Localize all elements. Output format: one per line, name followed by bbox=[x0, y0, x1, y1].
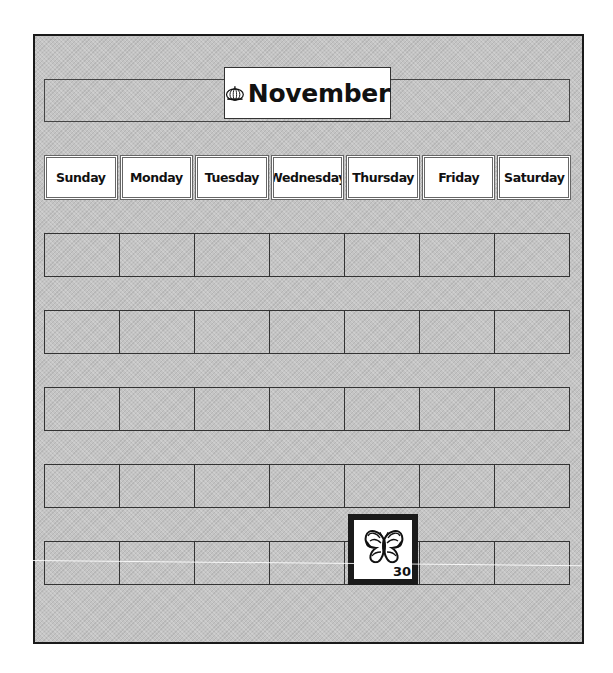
date-card-30[interactable]: 30 bbox=[348, 514, 418, 585]
day-slot[interactable] bbox=[494, 542, 569, 584]
weekday-header-saturday: Saturday bbox=[497, 155, 571, 200]
weekday-header-thursday: Thursday bbox=[346, 155, 420, 200]
weekday-header-sunday: Sunday bbox=[44, 155, 118, 200]
day-slot[interactable] bbox=[419, 234, 494, 276]
day-slot[interactable] bbox=[119, 465, 194, 507]
day-slot[interactable] bbox=[119, 388, 194, 430]
weekday-header-wednesday: Wednesday bbox=[271, 155, 345, 200]
week-row-4 bbox=[44, 464, 570, 508]
day-slot[interactable] bbox=[45, 311, 119, 353]
day-slot[interactable] bbox=[269, 465, 344, 507]
day-slot[interactable] bbox=[419, 311, 494, 353]
day-slot[interactable] bbox=[45, 542, 119, 584]
day-slot[interactable] bbox=[194, 311, 269, 353]
day-slot[interactable] bbox=[344, 388, 419, 430]
month-title-card[interactable]: November bbox=[224, 67, 391, 119]
day-slot[interactable] bbox=[494, 234, 569, 276]
date-number: 30 bbox=[392, 565, 412, 579]
day-slot[interactable] bbox=[45, 388, 119, 430]
day-slot[interactable] bbox=[419, 465, 494, 507]
day-slot[interactable] bbox=[45, 234, 119, 276]
day-slot[interactable] bbox=[269, 311, 344, 353]
weekday-header-row: Sunday Monday Tuesday Wednesday Thursday… bbox=[43, 155, 572, 200]
week-row-3 bbox=[44, 387, 570, 431]
weekday-header-monday: Monday bbox=[120, 155, 194, 200]
day-slot[interactable] bbox=[494, 388, 569, 430]
weekday-header-tuesday: Tuesday bbox=[195, 155, 269, 200]
day-slot[interactable] bbox=[119, 542, 194, 584]
day-slot[interactable] bbox=[494, 311, 569, 353]
day-slot[interactable] bbox=[269, 388, 344, 430]
day-slot[interactable] bbox=[119, 311, 194, 353]
day-slot[interactable] bbox=[119, 234, 194, 276]
weekday-header-friday: Friday bbox=[422, 155, 496, 200]
day-slot[interactable] bbox=[269, 234, 344, 276]
day-slot[interactable] bbox=[494, 465, 569, 507]
month-title: November bbox=[248, 79, 390, 108]
week-row-1 bbox=[44, 233, 570, 277]
day-slot[interactable] bbox=[194, 234, 269, 276]
pumpkin-icon bbox=[225, 82, 245, 104]
day-slot[interactable] bbox=[45, 465, 119, 507]
day-slot[interactable] bbox=[344, 465, 419, 507]
day-slot[interactable] bbox=[194, 465, 269, 507]
week-row-2 bbox=[44, 310, 570, 354]
butterfly-icon bbox=[362, 526, 406, 566]
day-slot[interactable] bbox=[344, 234, 419, 276]
day-slot[interactable] bbox=[194, 388, 269, 430]
day-slot[interactable] bbox=[419, 388, 494, 430]
day-slot[interactable] bbox=[344, 311, 419, 353]
